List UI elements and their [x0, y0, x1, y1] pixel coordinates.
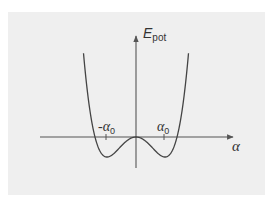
double-well-plot	[0, 0, 273, 200]
y-axis-label-sub: pot	[152, 32, 166, 43]
tick-label-main: α	[103, 119, 110, 134]
tick-label-sub: 0	[164, 126, 169, 136]
x-axis-label: α	[232, 139, 240, 154]
tick-label-pos-alpha0: α0	[157, 120, 169, 136]
tick-label-neg-alpha0: -α0	[98, 120, 115, 136]
tick-label-sub: 0	[110, 126, 115, 136]
y-axis-label: Epot	[143, 26, 166, 43]
y-axis-label-main: E	[143, 25, 152, 41]
